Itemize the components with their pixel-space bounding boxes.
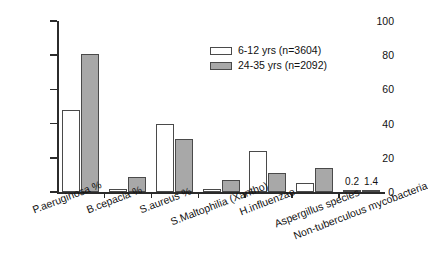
bar-3-0 [203,189,221,192]
bar-6-1 [362,190,380,192]
value-label-6-1: 1.4 [358,177,384,187]
y-tick-0 [50,191,57,193]
legend-label-1: 24-35 yrs (n=2092) [238,60,327,71]
y-tick-20 [50,157,57,159]
bar-0-0 [62,110,80,192]
bar-5-1 [315,168,333,192]
legend-item-0: 6-12 yrs (n=3604) [210,44,327,57]
chart-legend: 6-12 yrs (n=3604)24-35 yrs (n=2092) [210,44,327,74]
y-tick-60 [50,89,57,91]
bar-2-1 [175,139,193,192]
bar-5-0 [296,183,314,192]
bar-2-0 [156,124,174,192]
legend-label-0: 6-12 yrs (n=3604) [238,45,321,56]
y-tick-80 [50,54,57,56]
legend-item-1: 24-35 yrs (n=2092) [210,59,327,72]
y-tick-100 [50,20,57,22]
y-tick-40 [50,123,57,125]
legend-swatch-0 [210,47,232,55]
bar-0-1 [81,54,99,193]
legend-swatch-1 [210,62,232,70]
x-tick-3 [198,193,200,198]
